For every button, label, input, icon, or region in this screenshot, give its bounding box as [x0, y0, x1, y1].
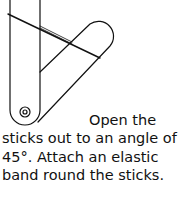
elastic-band — [8, 14, 100, 58]
caption-text: sticks out to an angle of 45°. Attach an… — [2, 129, 180, 185]
diagonal-stick — [38, 21, 114, 122]
caption-line-4: band round the sticks. — [2, 166, 180, 185]
rivet-icon — [20, 107, 30, 117]
vertical-stick — [10, 0, 40, 125]
caption-line-2: sticks out to an angle of — [2, 129, 180, 148]
caption-line-3: 45°. Attach an elastic — [2, 148, 180, 167]
caption-line-1: Open the — [89, 111, 156, 129]
